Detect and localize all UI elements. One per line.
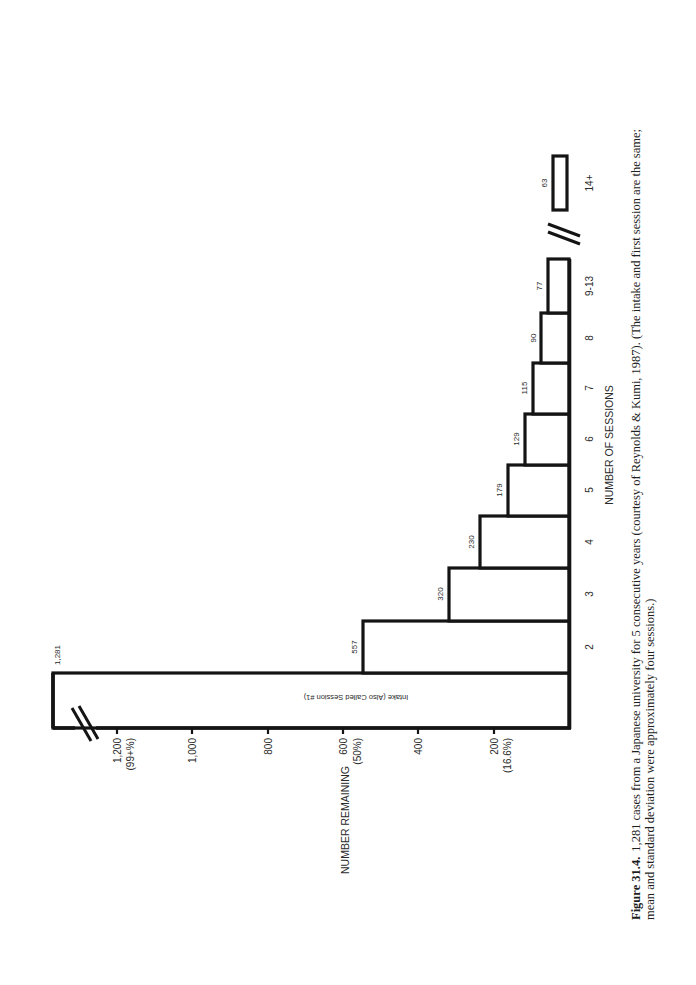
value-label-4: 230	[467, 535, 476, 549]
category-label-9-13: 9-13	[584, 276, 595, 296]
bar-session-2	[363, 621, 569, 673]
figure-caption: Figure 31.4.1,281 cases from a Japanese …	[629, 129, 657, 920]
tick-label-800: 800	[263, 738, 274, 755]
tick-label-400: 400	[413, 738, 424, 755]
tick-label-200: 200	[489, 738, 500, 755]
tick-note-600: (50%)	[352, 738, 363, 765]
category-label-8: 8	[584, 335, 595, 341]
category-labels: 2 3 4 5 6 7 8 9-13 14+	[584, 174, 595, 649]
caption-line-2: mean and standard deviation were approxi…	[643, 599, 657, 920]
value-label-2: 557	[350, 640, 359, 654]
category-label-4: 4	[584, 539, 595, 545]
bar-session-6	[525, 414, 569, 465]
value-label-8: 90	[529, 333, 538, 342]
value-tick-labels: 1,200 (99+%) 1,000 800 600 (50%) 400 200…	[112, 738, 513, 773]
category-label-2: 2	[584, 644, 595, 650]
caption-figure-number: Figure 31.4.	[629, 857, 643, 920]
value-label-3: 320	[436, 587, 445, 601]
tick-label-1000: 1,000	[187, 738, 198, 763]
bar-session-14plus	[553, 156, 567, 210]
value-label-7: 115	[520, 381, 529, 394]
value-label-14plus: 63	[540, 178, 549, 187]
bar-session-5	[508, 465, 569, 516]
tick-label-600: 600	[338, 738, 349, 755]
tick-note-200: (16.6%)	[502, 738, 513, 773]
category-label-3: 3	[584, 591, 595, 597]
tick-label-1200: 1,200	[112, 738, 123, 763]
value-label-9-13: 77	[535, 281, 544, 290]
bar-session-8	[541, 313, 569, 363]
intake-inner-label: Intake (Also Called Session #1)	[303, 693, 408, 702]
bar-session-4	[480, 516, 569, 568]
bar-session-7	[533, 363, 569, 414]
caption-line-1: Figure 31.4.1,281 cases from a Japanese …	[629, 129, 643, 920]
figure-canvas: 1,200 (99+%) 1,000 800 600 (50%) 400 200…	[0, 0, 696, 985]
value-label-5: 179	[495, 483, 504, 497]
category-label-14plus: 14+	[584, 174, 595, 191]
category-label-6: 6	[584, 436, 595, 442]
tick-note-1200: (99+%)	[125, 738, 136, 771]
value-axis-title: NUMBER REMAINING	[339, 766, 351, 874]
value-label-6: 129	[512, 432, 521, 446]
caption-text-1: 1,281 cases from a Japanese university f…	[629, 129, 643, 852]
bar-session-9-13	[548, 259, 569, 313]
category-label-7: 7	[584, 385, 595, 391]
bar-session-3	[449, 568, 569, 621]
category-axis-break-icon	[548, 224, 580, 244]
category-axis-title: NUMBER OF SESSIONS	[603, 385, 615, 505]
category-label-5: 5	[584, 487, 595, 493]
value-label-intake: 1,281	[53, 644, 62, 665]
